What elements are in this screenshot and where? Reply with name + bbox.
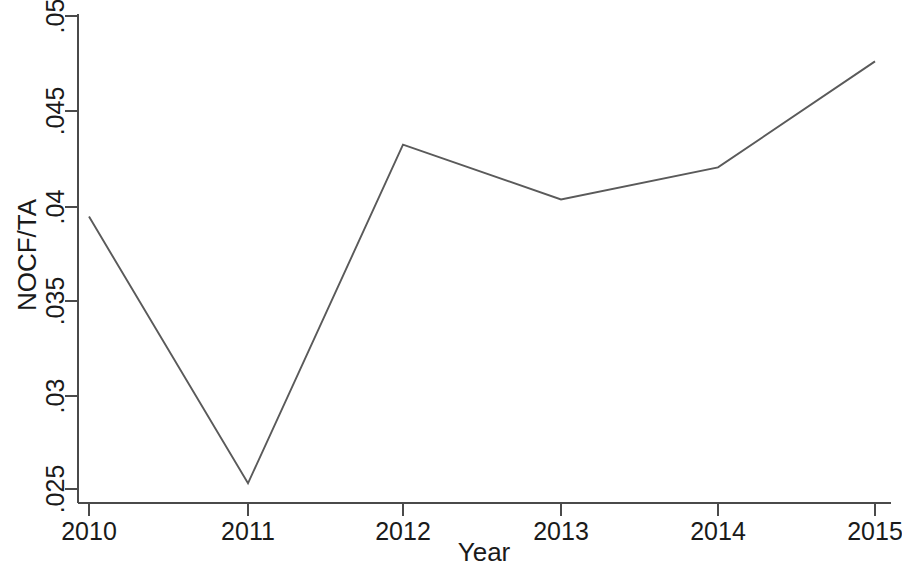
y-tick-label: .045 (41, 87, 69, 136)
chart-canvas: .05 .045 .04 .035 .03 .025 2010 2011 201… (0, 0, 902, 563)
y-tick-label: .03 (41, 379, 69, 414)
y-tick-label: .04 (41, 190, 69, 225)
y-tick-label: .035 (41, 277, 69, 326)
line-chart: .05 .045 .04 .035 .03 .025 2010 2011 201… (0, 0, 902, 563)
y-tick-labels: .05 .045 .04 .035 .03 .025 (41, 0, 69, 513)
data-series-line (89, 61, 875, 483)
x-tick-label: 2012 (375, 517, 431, 545)
x-tick-label: 2011 (221, 517, 275, 545)
y-tick-label: .05 (41, 0, 69, 33)
y-axis-title: NOCF/TA (12, 198, 42, 311)
x-tick-label: 2014 (690, 517, 746, 545)
x-tick-label: 2013 (533, 517, 589, 545)
x-tick-label: 2010 (61, 517, 117, 545)
x-axis-title: Year (458, 537, 511, 563)
x-axis-ticks (89, 503, 875, 516)
x-tick-label: 2015 (847, 517, 902, 545)
y-tick-label: .025 (41, 465, 69, 514)
